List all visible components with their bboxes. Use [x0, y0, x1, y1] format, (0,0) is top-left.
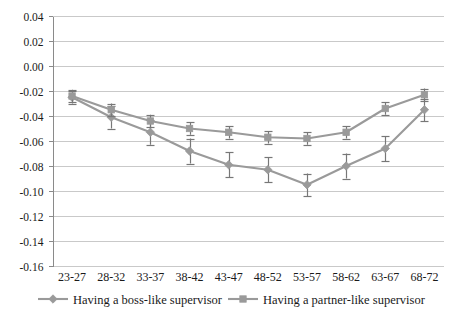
y-axis-tick-label: 0.04 — [23, 11, 43, 23]
y-axis-labels-group: 0.040.020.00-0.02-0.04-0.06-0.08-0.10-0.… — [20, 11, 44, 273]
y-axis-tick-label: 0.02 — [23, 36, 43, 48]
x-axis-tick-label: 38-42 — [176, 270, 204, 284]
y-axis-tick-label: -0.02 — [20, 86, 44, 98]
data-point-marker-diamond — [303, 181, 311, 189]
data-point-marker-square — [108, 107, 114, 113]
x-axis-tick-label: 58-62 — [332, 270, 360, 284]
x-axis-tick-label: 28-32 — [97, 270, 125, 284]
series-boss-like — [68, 91, 429, 197]
data-point-marker-square — [186, 125, 192, 131]
data-point-marker-square — [225, 129, 231, 135]
legend-item[interactable]: Having a partner-like supervisor — [228, 293, 426, 307]
y-axis-tick-label: -0.08 — [20, 161, 44, 173]
data-point-marker-square — [69, 93, 75, 99]
data-point-marker-diamond — [49, 295, 57, 303]
x-axis-tick-label: 63-67 — [371, 270, 399, 284]
data-point-marker-square — [343, 129, 349, 135]
data-point-marker-square — [147, 118, 153, 124]
data-point-marker-square — [304, 135, 310, 141]
data-point-marker-square — [382, 105, 388, 111]
chart-container: 0.040.020.00-0.02-0.04-0.06-0.08-0.10-0.… — [0, 0, 451, 316]
x-axis-labels-group: 23-2728-3233-3738-4243-4748-5253-5758-62… — [58, 270, 438, 284]
gridlines-group — [49, 17, 445, 267]
data-point-marker-square — [421, 92, 427, 98]
y-axis-tick-label: -0.06 — [20, 136, 44, 148]
x-axis-tick-label: 33-37 — [136, 270, 164, 284]
data-point-marker-diamond — [224, 161, 232, 169]
line-chart: 0.040.020.00-0.02-0.04-0.06-0.08-0.10-0.… — [0, 0, 451, 316]
legend-item[interactable]: Having a boss-like supervisor — [38, 293, 223, 307]
x-axis-tick-label: 53-57 — [293, 270, 321, 284]
y-axis-tick-label: -0.16 — [20, 261, 44, 273]
data-point-marker-diamond — [342, 162, 350, 170]
x-axis-tick-label: 48-52 — [254, 270, 282, 284]
x-axis-tick-label: 23-27 — [58, 270, 86, 284]
data-point-marker-square — [240, 296, 246, 302]
y-axis-tick-label: -0.12 — [20, 211, 44, 223]
chart-legend: Having a boss-like supervisorHaving a pa… — [38, 293, 426, 307]
y-axis-tick-label: 0.00 — [23, 61, 43, 73]
legend-item-label: Having a partner-like supervisor — [263, 293, 426, 307]
data-point-marker-diamond — [146, 128, 154, 136]
data-point-marker-diamond — [185, 147, 193, 155]
y-axis-tick-label: -0.10 — [20, 186, 44, 198]
data-point-marker-square — [265, 134, 271, 140]
x-axis-tick-label: 43-47 — [215, 270, 243, 284]
y-axis-tick-label: -0.14 — [20, 236, 44, 248]
x-axis-tick-label: 68-72 — [410, 270, 438, 284]
legend-item-label: Having a boss-like supervisor — [73, 293, 223, 307]
series-group — [68, 89, 429, 197]
y-axis-tick-label: -0.04 — [20, 111, 44, 123]
